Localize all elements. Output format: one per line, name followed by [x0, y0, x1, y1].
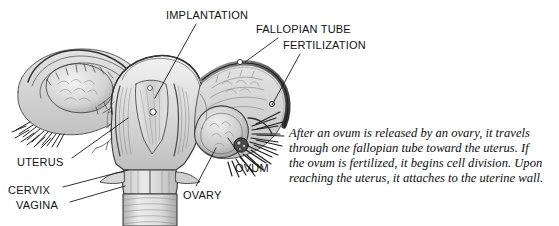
figure-canvas: IMPLANTATION FALLOPIAN TUBE FERTILIZATIO…	[0, 0, 559, 226]
label-fallopian-tube: FALLOPIAN TUBE	[256, 24, 351, 35]
figure-caption: After an ovum is released by an ovary, i…	[289, 126, 555, 186]
label-ovary: OVARY	[183, 190, 222, 201]
label-implantation: IMPLANTATION	[166, 10, 248, 21]
ovary-leader	[196, 148, 216, 186]
uterus-leader	[72, 118, 128, 158]
caption-line-4: reaching the uterus, it attaches to the …	[289, 171, 555, 186]
vagina-leader	[70, 186, 125, 202]
cervix-leader	[63, 170, 128, 187]
ovum-leader	[228, 138, 243, 160]
label-ovum: OVUM	[235, 163, 269, 174]
fertilization-leader	[272, 54, 300, 105]
caption-line-1: After an ovum is released by an ovary, i…	[289, 126, 555, 141]
implantation-leader	[155, 24, 196, 98]
caption-line-2: through one fallopian tube toward the ut…	[289, 141, 555, 156]
label-vagina: VAGINA	[16, 200, 58, 211]
label-uterus: UTERUS	[17, 157, 63, 168]
fallopian-tube-leader	[245, 38, 278, 62]
label-fertilization: FERTILIZATION	[283, 40, 366, 51]
label-cervix: CERVIX	[8, 185, 50, 196]
caption-line-3: the ovum is fertilized, it begins cell d…	[289, 156, 555, 171]
